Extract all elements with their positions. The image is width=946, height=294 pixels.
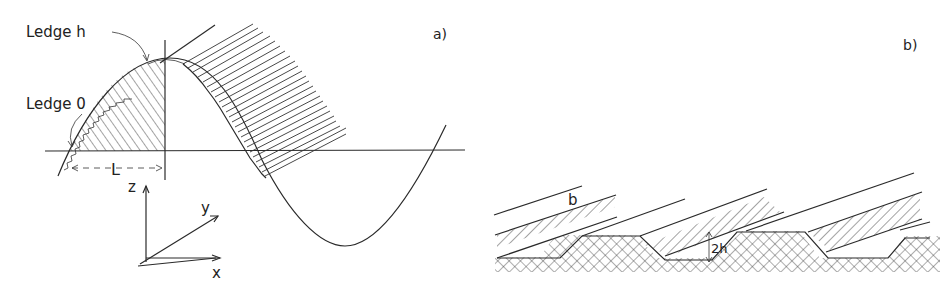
figure-canvas: L Ledge h Ledge 0 a) z y x — [0, 0, 946, 294]
ledge-h-label: Ledge h — [26, 23, 86, 41]
panel-b-label: b) — [903, 37, 917, 53]
panel-a-label: a) — [433, 26, 447, 42]
ledge-h-arrow — [112, 32, 147, 60]
ledge-steps-right — [183, 64, 266, 178]
x-axis — [138, 258, 216, 266]
panel-b: b) b 2h — [494, 37, 940, 272]
coordinate-axes: z y x — [128, 178, 221, 282]
layer-1-top — [495, 195, 616, 235]
ledge-0-label: Ledge 0 — [26, 95, 86, 113]
arrow-right-icon — [156, 165, 162, 171]
panel-a: L Ledge h Ledge 0 a) z y x — [26, 23, 465, 282]
width-b-label: b — [568, 191, 578, 209]
y-axis — [140, 216, 218, 264]
figure-svg: L Ledge h Ledge 0 a) z y x — [0, 0, 946, 294]
y-label: y — [201, 199, 210, 217]
x-label: x — [212, 264, 221, 282]
hatched-strip-right — [183, 24, 346, 176]
height-2h-label: 2h — [711, 241, 728, 256]
length-label: L — [111, 160, 120, 179]
z-label: z — [128, 178, 136, 196]
